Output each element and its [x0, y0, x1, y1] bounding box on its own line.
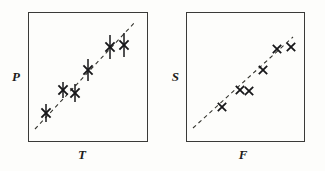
- data-point: [287, 43, 295, 51]
- x-axis-label-f: F: [233, 148, 253, 161]
- data-point: [218, 103, 226, 111]
- data-point: [245, 87, 253, 95]
- figure-container: P T S F: [0, 0, 325, 171]
- y-axis-label-s: S: [165, 70, 179, 83]
- data-point: [259, 66, 267, 74]
- panel-s-vs-f-plot: [0, 0, 325, 171]
- data-point: [236, 86, 244, 94]
